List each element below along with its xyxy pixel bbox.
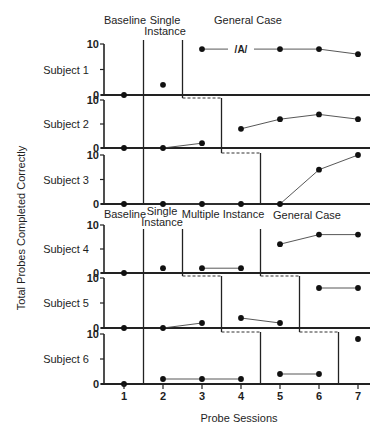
absent-annotation: /A/ xyxy=(235,44,248,55)
data-point xyxy=(316,112,322,118)
subject-label: Subject 4 xyxy=(43,243,89,255)
multiple-baseline-chart: Total Probes Completed Correctly Probe S… xyxy=(0,0,385,439)
data-point xyxy=(355,51,361,57)
phase-label: General Case xyxy=(214,14,282,26)
data-point xyxy=(238,126,244,132)
phase-label: Baseline xyxy=(104,14,146,26)
x-tick-label: 7 xyxy=(355,390,361,402)
x-tick-label: 6 xyxy=(316,390,322,402)
data-point xyxy=(160,376,166,382)
y-tick-label: 10 xyxy=(87,38,99,50)
data-point xyxy=(199,46,205,52)
y-tick-label: 0 xyxy=(93,198,99,210)
y-tick-label: 0 xyxy=(93,378,99,390)
data-point xyxy=(121,201,127,207)
data-point xyxy=(199,201,205,207)
phase-label: Instance xyxy=(141,216,183,228)
data-point xyxy=(199,140,205,146)
data-point xyxy=(238,315,244,321)
phase-label: Baseline xyxy=(104,208,146,220)
data-point xyxy=(316,167,322,173)
data-point xyxy=(355,232,361,238)
data-point xyxy=(355,152,361,158)
x-tick-label: 3 xyxy=(199,390,205,402)
data-point xyxy=(160,325,166,331)
data-point xyxy=(238,265,244,271)
y-tick-label: 10 xyxy=(87,328,99,340)
data-point xyxy=(238,376,244,382)
data-point xyxy=(238,201,244,207)
x-tick-label: 5 xyxy=(277,390,283,402)
y-tick-label: 10 xyxy=(87,149,99,161)
y-axis-title: Total Probes Completed Correctly xyxy=(15,145,27,310)
data-point xyxy=(160,265,166,271)
data-point xyxy=(277,371,283,377)
data-point xyxy=(355,285,361,291)
data-point xyxy=(277,241,283,247)
data-point xyxy=(121,325,127,331)
data-point xyxy=(160,82,166,88)
data-point xyxy=(277,116,283,122)
data-point xyxy=(121,92,127,98)
subject-label: Subject 5 xyxy=(43,297,89,309)
y-tick-label: 10 xyxy=(87,219,99,231)
data-point xyxy=(199,376,205,382)
data-point xyxy=(316,232,322,238)
data-point xyxy=(160,145,166,151)
data-point xyxy=(316,46,322,52)
data-point xyxy=(277,320,283,326)
data-point xyxy=(199,265,205,271)
data-point xyxy=(277,46,283,52)
data-point xyxy=(355,336,361,342)
y-tick-label: 10 xyxy=(87,272,99,284)
x-axis-title: Probe Sessions xyxy=(200,412,278,424)
subject-label: Subject 1 xyxy=(43,64,89,76)
data-point xyxy=(160,201,166,207)
data-point xyxy=(316,285,322,291)
subject-label: Subject 6 xyxy=(43,353,89,365)
phase-label: Multiple Instance xyxy=(182,208,265,220)
data-point xyxy=(316,371,322,377)
x-tick-label: 1 xyxy=(121,390,127,402)
data-point xyxy=(121,270,127,276)
subject-label: Subject 2 xyxy=(43,118,89,130)
data-point xyxy=(121,145,127,151)
phase-label: General Case xyxy=(273,209,341,221)
x-tick-label: 2 xyxy=(160,390,166,402)
x-tick-label: 4 xyxy=(238,390,245,402)
subject-label: Subject 3 xyxy=(43,174,89,186)
data-point xyxy=(199,320,205,326)
data-point xyxy=(277,201,283,207)
phase-label: Instance xyxy=(144,25,186,37)
data-point xyxy=(355,116,361,122)
y-tick-label: 10 xyxy=(87,94,99,106)
